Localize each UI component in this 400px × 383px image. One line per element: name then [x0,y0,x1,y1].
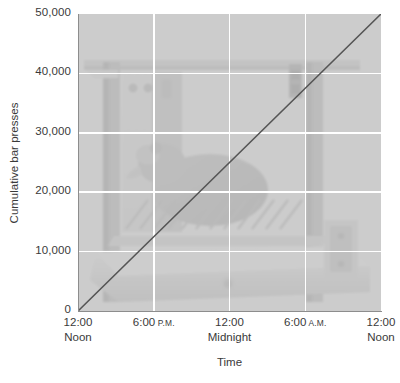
x-tick-label-line1: 6:00 A.M. [284,315,326,330]
cumulative-bar-presses-chart: 010,00020,00030,00040,00050,000 12:00Noo… [0,0,400,383]
x-axis-title: Time [78,356,381,368]
x-tick-time-text: 12:00 [367,316,396,328]
data-line-layer [78,14,381,311]
plot-area [78,14,381,311]
y-axis-line [78,14,79,311]
y-tick-label-text: 10,000 [35,244,71,256]
y-tick-label-text: 20,000 [35,184,71,196]
x-tick-label-line2: Noon [64,330,92,344]
x-tick-meridiem-text: P.M. [155,318,174,328]
y-axis-title: Cumulative bar presses [6,14,22,311]
x-tick-label-line2: Midnight [208,330,251,344]
y-tick-label-text: 50,000 [35,6,71,18]
x-tick-label-line1: 12:00 [367,315,396,329]
series-line-cumulative-bar-presses [78,14,381,311]
x-tick-label-line2: Noon [367,330,395,344]
x-tick-label-line1: 6:00 P.M. [133,315,175,330]
y-tick-label-text: 0 [65,303,72,315]
x-tick-time-text: 12:00 [215,316,244,328]
x-tick-time-text: 6:00 [133,316,155,328]
x-tick-label-line1: 12:00 [215,315,244,329]
y-axis-title-text: Cumulative bar presses [8,102,20,223]
x-tick-label-line1: 12:00 [64,315,93,329]
x-tick-meridiem-text: A.M. [306,318,326,328]
y-tick-label-text: 40,000 [35,65,71,77]
x-axis-line [78,311,382,312]
x-tick-time-text: 6:00 [284,316,306,328]
y-tick-label-text: 30,000 [35,125,71,137]
x-tick-time-text: 12:00 [64,316,93,328]
